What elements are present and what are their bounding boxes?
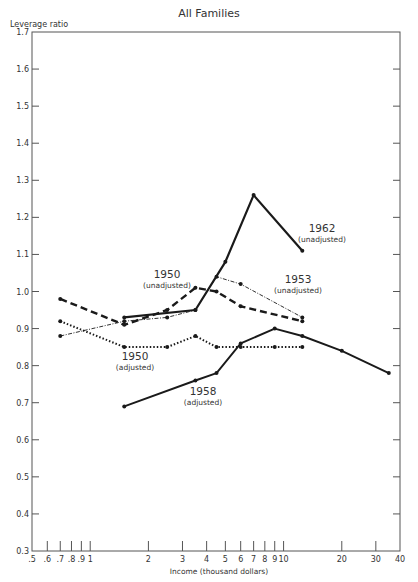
- x-tick-label: 7: [251, 555, 256, 564]
- series-line: [60, 321, 302, 347]
- data-point: [273, 327, 277, 331]
- x-tick-label: 4: [204, 555, 209, 564]
- data-point: [122, 404, 126, 408]
- data-point: [58, 334, 62, 338]
- data-point: [122, 323, 126, 327]
- y-tick-label: 0.6: [16, 436, 29, 445]
- series-line: [60, 288, 302, 325]
- data-point: [273, 345, 277, 349]
- data-point: [300, 249, 304, 253]
- series-annotation: 1958(adjusted): [184, 385, 222, 407]
- series-1950-adjusted: [58, 319, 304, 349]
- data-point: [215, 371, 219, 375]
- x-tick-label: .6: [43, 555, 51, 564]
- y-tick-label: 1.5: [16, 102, 29, 111]
- data-point: [193, 308, 197, 312]
- data-point: [193, 334, 197, 338]
- x-tick-label: 3: [180, 555, 185, 564]
- data-point: [165, 315, 169, 319]
- series-annotation: 1962(unadjusted): [298, 222, 346, 244]
- x-tick-label: 9: [272, 555, 277, 564]
- x-tick-label: 10: [278, 555, 288, 564]
- y-tick-label: 0.9: [16, 325, 29, 334]
- x-tick-label: .5: [28, 555, 36, 564]
- y-tick-label: 0.4: [16, 510, 29, 519]
- y-tick-label: 1.0: [16, 288, 29, 297]
- x-tick-label: 30: [371, 555, 381, 564]
- y-tick-label: 1.3: [16, 176, 29, 185]
- series-1962-unadjusted: [122, 193, 304, 319]
- y-tick-label: 1.4: [16, 139, 29, 148]
- y-axis: 0.30.40.50.60.70.80.91.01.11.21.31.41.51…: [16, 28, 400, 556]
- annotation-note: (adjusted): [184, 398, 222, 407]
- x-tick-label: 8: [262, 555, 267, 564]
- series-1958-adjusted: [122, 327, 391, 409]
- x-tick-label: 5: [223, 555, 228, 564]
- data-point: [122, 319, 126, 323]
- data-point: [252, 193, 256, 197]
- data-point: [223, 260, 227, 264]
- x-tick-label: .7: [56, 555, 64, 564]
- annotation-note: (unadjusted): [143, 281, 191, 290]
- data-point: [193, 286, 197, 290]
- annotation-year: 1953: [285, 273, 312, 285]
- series-line: [124, 329, 389, 407]
- x-tick-label: 2: [146, 555, 151, 564]
- y-tick-label: 1.7: [16, 28, 29, 37]
- annotation-note: (adjusted): [116, 363, 154, 372]
- data-point: [239, 341, 243, 345]
- x-tick-label: .9: [78, 555, 86, 564]
- x-tick-label: 20: [337, 555, 347, 564]
- annotation-year: 1958: [190, 385, 217, 397]
- series-annotation: 1950(unadjusted): [143, 268, 191, 290]
- y-tick-label: 0.5: [16, 473, 29, 482]
- data-point: [215, 345, 219, 349]
- x-tick-label: 1: [88, 555, 93, 564]
- data-point: [340, 349, 344, 353]
- annotation-note: (unadjusted): [298, 235, 346, 244]
- annotation-note: (unadjusted): [274, 286, 322, 295]
- data-point: [300, 315, 304, 319]
- y-tick-label: 1.2: [16, 213, 29, 222]
- data-point: [387, 371, 391, 375]
- data-point: [300, 334, 304, 338]
- series-1950-unadjusted: [58, 286, 304, 327]
- annotation-year: 1962: [309, 222, 336, 234]
- y-tick-label: 0.7: [16, 399, 29, 408]
- data-point: [193, 378, 197, 382]
- data-point: [300, 345, 304, 349]
- series-annotation: 1953(unadjusted): [274, 273, 322, 295]
- series-line: [124, 195, 302, 317]
- annotation-year: 1950: [154, 268, 181, 280]
- data-point: [58, 297, 62, 301]
- data-point: [58, 319, 62, 323]
- data-point: [165, 308, 169, 312]
- series-group: [58, 193, 391, 408]
- annotation-year: 1950: [122, 350, 149, 362]
- y-tick-label: 0.8: [16, 362, 29, 371]
- x-axis: .5.6.7.8.912345678910203040: [28, 541, 405, 564]
- data-point: [215, 290, 219, 294]
- data-point: [122, 345, 126, 349]
- data-point: [122, 315, 126, 319]
- x-tick-label: .8: [68, 555, 76, 564]
- x-tick-label: 6: [238, 555, 243, 564]
- y-tick-label: 1.1: [16, 250, 29, 259]
- series-annotation: 1950(adjusted): [116, 350, 154, 372]
- data-point: [239, 282, 243, 286]
- x-tick-label: 40: [395, 555, 405, 564]
- y-tick-label: 0.3: [16, 547, 29, 556]
- line-chart: 0.30.40.50.60.70.80.91.01.11.21.31.41.51…: [0, 0, 418, 582]
- data-point: [165, 345, 169, 349]
- data-point: [300, 319, 304, 323]
- data-point: [239, 304, 243, 308]
- y-tick-label: 1.6: [16, 65, 29, 74]
